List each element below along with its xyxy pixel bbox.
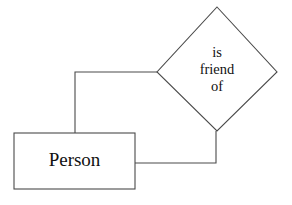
diagram-svg: Person is friend of: [0, 0, 292, 205]
connector-right-line[interactable]: [135, 131, 216, 163]
entity-person-label: Person: [49, 149, 101, 170]
relationship-label-line-3: of: [211, 78, 223, 94]
relationship-label-line-2: friend: [200, 61, 235, 77]
connector-left-line[interactable]: [75, 72, 157, 133]
relationship-label-line-1: is: [212, 44, 222, 60]
er-diagram-canvas: Person is friend of: [0, 0, 292, 205]
